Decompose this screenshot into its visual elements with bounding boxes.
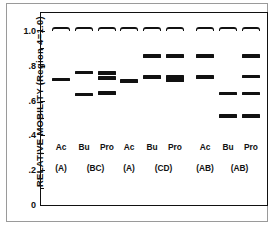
y-tick-major <box>40 135 45 136</box>
y-tick-minor <box>40 118 44 119</box>
band <box>196 27 214 31</box>
lane-label-pro: Pro <box>244 142 258 152</box>
band <box>242 92 260 96</box>
y-tick-major <box>40 31 45 32</box>
lane-label-bu: Bu <box>146 142 157 152</box>
band <box>196 54 214 58</box>
band <box>98 91 116 95</box>
y-tick-label: .2 <box>8 166 36 175</box>
genotype-label-left: (AB) <box>196 163 214 173</box>
band <box>219 92 237 96</box>
band <box>143 27 161 31</box>
band <box>120 79 138 83</box>
band <box>219 27 237 31</box>
band <box>52 27 70 31</box>
band <box>143 75 161 79</box>
band <box>75 93 93 97</box>
band <box>219 114 237 118</box>
band <box>166 27 184 31</box>
band <box>120 27 138 31</box>
lane-label-ac: Ac <box>200 142 211 152</box>
y-tick-label: 1.0 <box>8 27 36 36</box>
y-tick-label: .4 <box>8 131 36 140</box>
genotype-label-right: (AB) <box>231 163 249 173</box>
plot-area-frame <box>40 12 268 206</box>
y-tick-minor <box>40 188 44 189</box>
lane-label-pro: Pro <box>168 142 182 152</box>
lane-label-ac: Ac <box>56 142 67 152</box>
band <box>166 78 184 82</box>
y-tick-minor <box>40 48 44 49</box>
band <box>98 27 116 31</box>
figure-root: RELATIVE MOBILITY (Region 4=1.0) 0.2.4.6… <box>0 0 280 225</box>
y-tick-label: .8 <box>8 61 36 70</box>
band <box>75 71 93 75</box>
band <box>75 27 93 31</box>
lane-label-ac: Ac <box>124 142 135 152</box>
band <box>166 54 184 58</box>
band <box>98 76 116 80</box>
genotype-label-right: (BC) <box>87 163 105 173</box>
y-tick-minor <box>40 153 44 154</box>
genotype-label-left: (A) <box>55 163 67 173</box>
band <box>52 78 70 82</box>
lane-label-bu: Bu <box>222 142 233 152</box>
genotype-label-right: (CD) <box>155 163 173 173</box>
y-tick-major <box>40 170 45 171</box>
band <box>242 75 260 79</box>
band <box>196 75 214 79</box>
y-tick-minor <box>40 83 44 84</box>
band <box>242 54 260 58</box>
band <box>242 27 260 31</box>
band <box>143 54 161 58</box>
y-tick-major <box>40 205 45 206</box>
y-tick-major <box>40 66 45 67</box>
y-tick-label: .6 <box>8 96 36 105</box>
lane-label-bu: Bu <box>78 142 89 152</box>
genotype-label-left: (A) <box>123 163 135 173</box>
band <box>98 71 116 75</box>
y-tick-major <box>40 101 45 102</box>
y-tick-label: 0 <box>8 201 36 210</box>
lane-label-pro: Pro <box>100 142 114 152</box>
band <box>242 114 260 118</box>
